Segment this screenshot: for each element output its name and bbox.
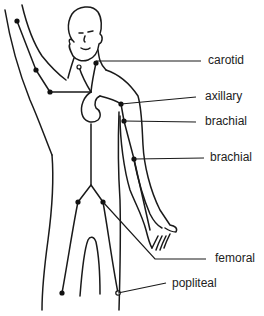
right-shoulder-outline (106, 70, 177, 232)
brachial-upper-leader-line (124, 121, 196, 122)
leg-arteries (62, 185, 118, 293)
label-axillary: axillary (205, 89, 242, 103)
raised-arm-outline (5, 5, 66, 155)
neck-outline (68, 50, 106, 78)
torso-right-outline (118, 112, 120, 310)
carotid-artery (91, 63, 96, 92)
left-arm-artery (17, 21, 91, 92)
axillary-leader-line (121, 97, 196, 104)
heart-and-aorta (81, 92, 100, 185)
carotid-artery-left (79, 67, 91, 92)
pulse-point-marker (33, 67, 38, 72)
pulse-point-marker (14, 18, 19, 23)
pulse-points-diagram: carotid axillary brachial brachial femor… (0, 0, 264, 316)
label-popliteal: popliteal (172, 276, 217, 290)
popliteal-leader-line (118, 283, 166, 293)
label-carotid: carotid (208, 53, 244, 67)
face-features (79, 31, 93, 50)
label-femoral: femoral (215, 251, 255, 265)
label-brachial-lower: brachial (210, 150, 252, 164)
femoral-leader-line (103, 202, 206, 259)
pulse-point-marker (77, 65, 81, 69)
label-brachial-upper: brachial (205, 114, 247, 128)
torso-left-outline (42, 155, 53, 310)
pulse-point-marker (47, 89, 52, 94)
inner-legs-outline (80, 237, 100, 296)
right-arm-artery (100, 96, 150, 230)
head-outline (68, 7, 102, 61)
femoral-pulse-marker (75, 199, 80, 204)
hand-fingers (152, 234, 170, 250)
pulse-point-marker (59, 290, 64, 295)
